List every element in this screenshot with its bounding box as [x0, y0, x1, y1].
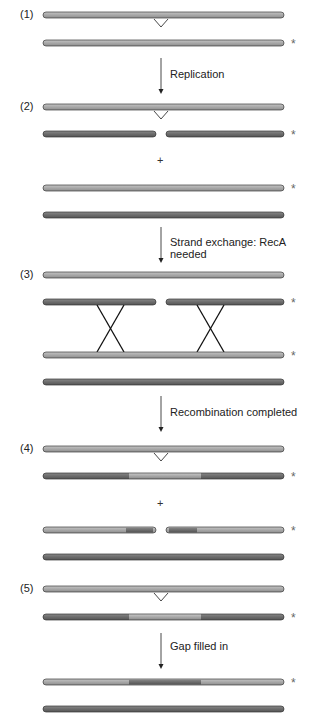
step2-dark-strand-sister — [43, 212, 284, 218]
plus-sign: + — [157, 154, 163, 166]
step2-dark-strand-right — [166, 131, 284, 137]
gap-marker-icon — [154, 593, 168, 601]
arrow-label-gap-filled: Gap filled in — [170, 640, 228, 652]
step1-parent-strand-top — [43, 12, 284, 18]
arrowhead-icon — [159, 89, 164, 94]
step4-dark-strand-with-patch — [43, 473, 284, 479]
crossover-left — [97, 305, 124, 352]
arrow-label-strand-exchange: Strand exchange: RecA needed — [170, 236, 319, 260]
crossover-right — [197, 305, 224, 352]
asterisk-marker: * — [291, 37, 296, 51]
step3-dark-strand-right — [166, 299, 284, 305]
gap-marker-icon — [154, 111, 168, 119]
step-label-2: (2) — [20, 100, 33, 112]
step-label-1: (1) — [20, 8, 33, 20]
step3-dark-strand-sister — [43, 379, 284, 385]
step4-sister-right-segment — [166, 527, 284, 533]
final-dark-strand — [43, 706, 284, 712]
arrow-label-replication: Replication — [170, 68, 224, 80]
step-label-3: (3) — [20, 268, 33, 280]
final-light-strand-with-patch — [43, 679, 284, 685]
diagram-canvas — [0, 0, 319, 719]
asterisk-marker: * — [291, 676, 296, 690]
arrowhead-icon — [159, 664, 164, 669]
step2-light-strand-sister — [43, 185, 284, 191]
step4-light-strand — [43, 446, 284, 452]
arrow-label-recombination: Recombination completed — [170, 406, 297, 418]
step4-dark-strand-sister — [43, 554, 284, 560]
step4-sister-left-segment — [43, 527, 156, 533]
step5-light-strand — [43, 586, 284, 592]
arrowhead-icon — [159, 427, 164, 432]
asterisk-marker: * — [291, 296, 296, 310]
step-label-5: (5) — [20, 582, 33, 594]
asterisk-marker: * — [291, 524, 296, 538]
arrowhead-icon — [159, 258, 164, 263]
step2-light-strand-gapped — [43, 104, 284, 110]
step5-dark-strand-with-patch — [43, 614, 284, 620]
asterisk-marker: * — [291, 349, 296, 363]
asterisk-marker: * — [291, 128, 296, 142]
step3-dark-strand-left — [43, 299, 156, 305]
step-label-4: (4) — [20, 442, 33, 454]
step3-light-strand — [43, 272, 284, 278]
gap-marker-icon — [154, 453, 168, 461]
step3-light-strand-sister — [43, 352, 284, 358]
asterisk-marker: * — [291, 182, 296, 196]
step2-dark-strand-left — [43, 131, 156, 137]
gap-marker-icon — [154, 19, 168, 27]
plus-sign: + — [157, 497, 163, 509]
asterisk-marker: * — [291, 470, 296, 484]
asterisk-marker: * — [291, 611, 296, 625]
step1-parent-strand-bottom — [43, 40, 284, 46]
